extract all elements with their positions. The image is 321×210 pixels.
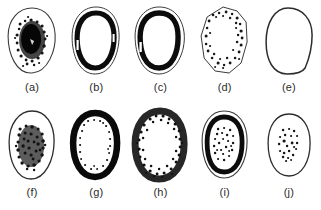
panel-h-label: (h): [128, 186, 192, 199]
thick-ring: [77, 13, 114, 68]
panel-d: (d): [193, 0, 257, 105]
panel-f: (f): [0, 105, 64, 210]
speckle-annulus: [204, 11, 243, 70]
panel-j: (j): [257, 105, 321, 210]
panel-a-label: (a): [0, 81, 64, 94]
panel-a-art: [0, 0, 64, 82]
speckle-cluster: [278, 128, 298, 162]
panel-e-label: (e): [257, 81, 321, 94]
panel-h-art: [128, 105, 192, 187]
panel-g: (g): [64, 105, 128, 210]
panel-h: (h): [128, 105, 192, 210]
panel-e: (e): [257, 0, 321, 105]
outline-shape: [201, 7, 247, 73]
panel-d-art: [193, 0, 257, 82]
panel-a: (a): [0, 0, 64, 105]
panel-e-drawing: [257, 0, 321, 82]
panel-j-art: [257, 105, 321, 187]
figure-panel-grid: (a) (b) (c): [0, 0, 321, 210]
panel-g-art: [64, 105, 128, 187]
panel-i: (i): [193, 105, 257, 210]
panel-f-art: [0, 105, 64, 187]
panel-b-drawing: [64, 0, 128, 82]
outline-shape: [268, 114, 310, 176]
panel-g-drawing: [64, 105, 128, 187]
panel-c-drawing: [128, 0, 192, 82]
panel-a-drawing: [0, 0, 64, 82]
thick-ring: [141, 13, 179, 68]
panel-e-art: [257, 0, 321, 82]
panel-d-label: (d): [193, 81, 257, 94]
panel-b-label: (b): [64, 81, 128, 94]
panel-c-art: [128, 0, 192, 82]
panel-b-art: [64, 0, 128, 82]
panel-f-drawing: [0, 105, 64, 187]
panel-j-label: (j): [257, 186, 321, 199]
panel-g-label: (g): [64, 186, 128, 199]
panel-i-art: [193, 105, 257, 187]
panel-h-drawing: [128, 105, 192, 187]
panel-c: (c): [128, 0, 192, 105]
panel-c-label: (c): [128, 81, 192, 94]
panel-row-top: (a) (b) (c): [0, 0, 321, 105]
panel-i-drawing: [193, 105, 257, 187]
panel-row-bottom: (f): [0, 105, 321, 210]
speckle-cluster: [213, 127, 234, 161]
inner-void: [142, 118, 179, 172]
panel-j-drawing: [257, 105, 321, 187]
outline-shape: [266, 8, 312, 74]
thick-ring: [207, 117, 242, 172]
speckle-cluster: [15, 125, 46, 172]
panel-i-label: (i): [193, 186, 257, 199]
panel-f-label: (f): [0, 186, 64, 199]
speckle-cluster: [14, 16, 48, 67]
panel-d-drawing: [193, 0, 257, 82]
panel-b: (b): [64, 0, 128, 105]
